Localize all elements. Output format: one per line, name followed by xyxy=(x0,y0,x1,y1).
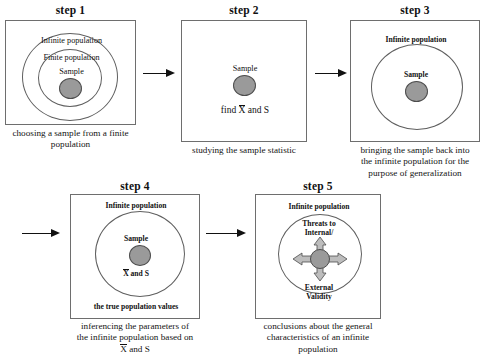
infinite-population-label: Infinite population xyxy=(6,36,137,46)
step-1-panel: Infinite population Finite population Sa… xyxy=(5,20,136,125)
arrow-head xyxy=(51,229,60,237)
sample-dot xyxy=(311,250,330,269)
step-1-title: step 1 xyxy=(5,4,136,16)
step-5-panel: Infinite population Threats to Internal/ xyxy=(255,194,381,319)
arrow-shaft xyxy=(315,73,339,74)
arrow-shaft xyxy=(206,233,238,234)
step-1-caption-line-1: choosing a sample from a finite xyxy=(5,128,136,139)
statistic-rest: and S xyxy=(129,269,149,278)
step-1-caption: choosing a sample from a finite populati… xyxy=(5,128,136,151)
statistic-prefix: find xyxy=(221,105,239,115)
step-2-caption: studying the sample statistic xyxy=(181,145,307,156)
arrow-shaft xyxy=(143,73,167,74)
step-5-group: step 5 Infinite population Threats to In… xyxy=(255,180,381,354)
caption-line-3-rest: and S xyxy=(127,344,150,354)
statistic-label: X and S xyxy=(71,269,201,279)
arrow-head xyxy=(338,69,347,77)
statistic-suffix: and S xyxy=(245,105,269,115)
step-4-group: step 4 Infinite population Sample X and … xyxy=(70,180,200,354)
step-3-caption-line-2: the infinite population for the xyxy=(350,156,480,167)
arrow-head xyxy=(237,229,246,237)
step-4-caption: inferencing the parameters of the infini… xyxy=(70,321,200,355)
find-statistic-label: find X and S xyxy=(182,105,308,116)
step-5-caption-line-1: conclusions about the general xyxy=(255,321,381,332)
diagram-canvas: step 1 Infinite population Finite popula… xyxy=(0,0,486,356)
four-way-arrow-cluster xyxy=(293,237,347,281)
true-population-values-label: the true population values xyxy=(71,302,201,312)
step-3-caption: bringing the sample back into the infini… xyxy=(350,145,480,179)
arrow-step2-to-step3 xyxy=(315,68,347,80)
step-2-caption-line-1: studying the sample statistic xyxy=(181,145,307,156)
arrow-step4-to-step5 xyxy=(206,228,248,240)
infinite-population-label: Infinite population xyxy=(351,35,481,45)
arrow-step3-to-step4 xyxy=(22,228,62,240)
step-4-panel: Infinite population Sample X and S the t… xyxy=(70,194,200,319)
sample-dot xyxy=(129,245,151,266)
step-4-caption-line-1: inferencing the parameters of xyxy=(70,321,200,332)
sample-dot xyxy=(59,78,82,99)
step-2-title: step 2 xyxy=(181,4,307,16)
infinite-population-label: Infinite population xyxy=(71,201,201,211)
step-4-caption-line-3: X and S xyxy=(70,344,200,355)
step-2-group: step 2 Sample find X and S studying the … xyxy=(181,4,307,156)
step-2-panel: Sample find X and S xyxy=(181,20,307,142)
step-4-caption-line-2: the infinite population based on xyxy=(70,332,200,343)
step-3-caption-line-3: purpose of generalization xyxy=(350,168,480,179)
infinite-population-label: Infinite population xyxy=(256,202,382,212)
step-3-caption-line-1: bringing the sample back into xyxy=(350,145,480,156)
four-way-arrow-svg xyxy=(293,237,347,281)
arrow-shaft xyxy=(22,233,52,234)
step-5-caption-line-2: characteristics of an infinite xyxy=(255,332,381,343)
step-3-title: step 3 xyxy=(350,4,480,16)
sample-label: Sample xyxy=(182,64,308,74)
step-5-caption: conclusions about the general characteri… xyxy=(255,321,381,355)
arrow-right-icon xyxy=(328,253,347,265)
validity-label-line-2: Validity xyxy=(256,292,382,302)
step-5-caption-line-3: population xyxy=(255,344,381,355)
step-4-title: step 4 xyxy=(70,180,200,192)
sample-label: Sample xyxy=(71,234,201,244)
step-3-panel: Infinite population Sample xyxy=(350,20,480,142)
finite-population-label: Finite population xyxy=(6,53,137,63)
arrow-step1-to-step2 xyxy=(143,68,175,80)
arrow-left-icon xyxy=(293,253,312,265)
x-bar-symbol: X xyxy=(120,344,127,354)
sample-dot xyxy=(233,75,256,96)
arrow-head xyxy=(166,69,175,77)
step-3-group: step 3 Infinite population Sample bringi… xyxy=(350,4,480,156)
step-5-title: step 5 xyxy=(255,180,381,192)
step-1-caption-line-2: population xyxy=(5,139,136,150)
sample-label: Sample xyxy=(6,67,137,77)
sample-dot xyxy=(405,81,428,102)
step-1-group: step 1 Infinite population Finite popula… xyxy=(5,4,136,156)
sample-label: Sample xyxy=(351,70,481,80)
